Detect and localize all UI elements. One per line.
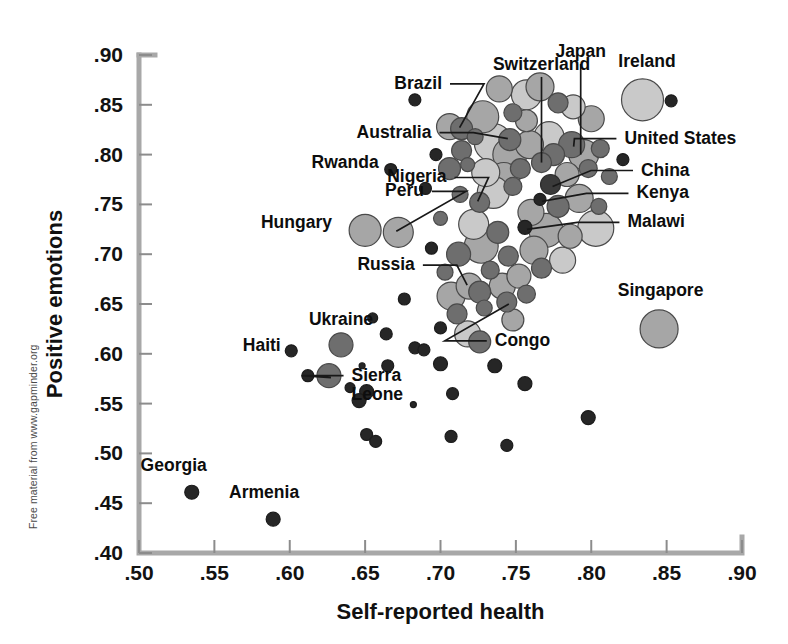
bubble[interactable]: [518, 377, 532, 391]
x-tick-label: .85: [652, 561, 682, 584]
bubble[interactable]: [445, 430, 457, 442]
y-tick-label: .80: [94, 143, 123, 166]
bubble-ukraine[interactable]: [329, 333, 353, 357]
bubble[interactable]: [447, 242, 471, 266]
bubble[interactable]: [459, 209, 489, 239]
bubble-peru[interactable]: [383, 217, 413, 247]
bubble-kenya[interactable]: [534, 193, 546, 205]
label-rwanda: Rwanda: [312, 152, 379, 172]
label-australia: Australia: [357, 122, 432, 142]
bubble-singapore[interactable]: [640, 310, 678, 348]
bubble[interactable]: [467, 129, 483, 145]
bubble[interactable]: [435, 322, 447, 334]
bubble[interactable]: [498, 246, 518, 266]
bubble[interactable]: [437, 264, 453, 280]
bubble-australia[interactable]: [499, 129, 521, 151]
bubble[interactable]: [469, 331, 491, 353]
label-ukraine: Ukraine: [309, 309, 373, 329]
bubble[interactable]: [504, 104, 522, 122]
label-sierra-leone: SierraLeone: [352, 365, 404, 404]
bubble[interactable]: [501, 439, 513, 451]
bubble[interactable]: [578, 210, 614, 246]
bubble-ireland[interactable]: [622, 79, 664, 121]
y-tick-label: .55: [94, 392, 124, 415]
bubble[interactable]: [469, 281, 491, 303]
label-malawi: Malawi: [627, 211, 684, 231]
bubble-hungary[interactable]: [349, 214, 381, 246]
bubble[interactable]: [617, 154, 629, 166]
bubble-georgia[interactable]: [185, 485, 199, 499]
label-haiti: Haiti: [243, 335, 281, 355]
y-tick-label: .40: [94, 541, 123, 564]
bubble[interactable]: [476, 300, 492, 316]
y-tick-label: .70: [94, 242, 123, 265]
x-tick-label: .70: [426, 561, 455, 584]
bubble[interactable]: [517, 285, 535, 303]
x-tick-label: .80: [577, 561, 606, 584]
bubble-malawi[interactable]: [518, 220, 532, 234]
bubble[interactable]: [434, 211, 448, 225]
bubble[interactable]: [581, 411, 595, 425]
label-georgia: Georgia: [141, 455, 207, 475]
source-credit: Free material from www.gapminder.org: [27, 339, 39, 529]
label-hungary: Hungary: [261, 212, 332, 232]
bubble[interactable]: [461, 158, 475, 172]
bubble[interactable]: [550, 247, 576, 273]
y-tick-label: .85: [94, 93, 124, 116]
bubble[interactable]: [430, 149, 442, 161]
bubble[interactable]: [591, 140, 609, 158]
label-china: China: [641, 160, 690, 180]
label-united-states: United States: [624, 128, 736, 148]
bubble-armenia[interactable]: [266, 512, 280, 526]
y-axis-title: Positive emotions: [42, 210, 67, 398]
bubble[interactable]: [425, 242, 437, 254]
bubble-haiti[interactable]: [285, 345, 297, 357]
y-tick-label: .75: [94, 192, 124, 215]
x-tick-label: .50: [124, 561, 153, 584]
y-tick-label: .90: [94, 43, 123, 66]
x-axis-title: Self-reported health: [337, 599, 545, 624]
bubble[interactable]: [447, 304, 467, 324]
label-armenia: Armenia: [229, 482, 299, 502]
bubble[interactable]: [447, 388, 459, 400]
label-brazil: Brazil: [394, 73, 442, 93]
y-tick-label: .65: [94, 292, 124, 315]
bubble[interactable]: [418, 344, 430, 356]
y-tick-label: .45: [94, 491, 124, 514]
label-kenya: Kenya: [636, 182, 689, 202]
label-singapore: Singapore: [618, 280, 704, 300]
bubble[interactable]: [532, 258, 552, 278]
label-japan: Japan: [555, 41, 606, 61]
bubble[interactable]: [410, 402, 416, 408]
bubble[interactable]: [380, 328, 392, 340]
x-tick-label: .75: [501, 561, 531, 584]
x-tick-label: .55: [200, 561, 230, 584]
bubble[interactable]: [504, 177, 522, 195]
bubble[interactable]: [370, 435, 382, 447]
scatter-plot-svg: .40.45.50.55.60.65.70.75.80.85.90.50.55.…: [0, 0, 788, 644]
bubble[interactable]: [510, 159, 530, 179]
label-russia: Russia: [357, 254, 415, 274]
x-tick-label: .65: [351, 561, 381, 584]
bubble[interactable]: [487, 221, 509, 243]
bubble[interactable]: [481, 261, 499, 279]
bubble[interactable]: [591, 198, 607, 214]
gapminder-scatter-figure: .40.45.50.55.60.65.70.75.80.85.90.50.55.…: [0, 0, 788, 644]
bubble[interactable]: [486, 76, 512, 102]
label-ireland: Ireland: [618, 51, 675, 71]
bubble[interactable]: [548, 93, 568, 113]
bubble[interactable]: [488, 359, 502, 373]
y-tick-label: .60: [94, 342, 123, 365]
label-congo: Congo: [495, 330, 550, 350]
bubble[interactable]: [434, 357, 448, 371]
bubble[interactable]: [409, 94, 421, 106]
bubble[interactable]: [558, 224, 582, 248]
x-tick-label: .90: [727, 561, 756, 584]
bubble[interactable]: [398, 293, 410, 305]
bubble[interactable]: [665, 95, 677, 107]
y-tick-label: .50: [94, 441, 123, 464]
label-nigeria: Nigeria: [387, 166, 447, 186]
x-tick-label: .60: [275, 561, 304, 584]
